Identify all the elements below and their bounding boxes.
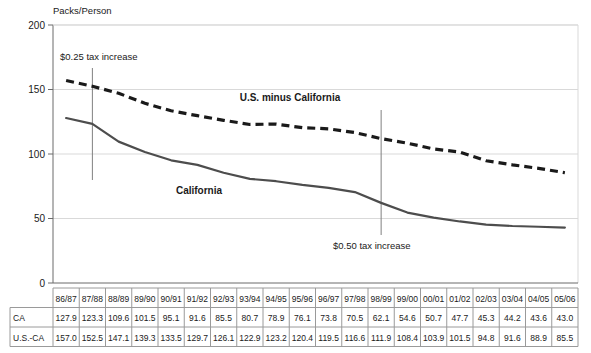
table-cell: 133.5 — [160, 333, 182, 343]
table-cell: 126.1 — [213, 333, 235, 343]
x-category-label: 05/06 — [554, 294, 576, 304]
table-cell: 157.0 — [55, 333, 77, 343]
x-category-label: 92/93 — [213, 294, 235, 304]
series-label: California — [176, 185, 223, 196]
table-cell: 44.2 — [504, 313, 521, 323]
table-cell: 73.8 — [320, 313, 337, 323]
table-cell: 91.6 — [189, 313, 206, 323]
annotation-label: $0.50 tax increase — [333, 240, 411, 251]
table-cell: 152.5 — [82, 333, 104, 343]
table-row-label: CA — [13, 313, 25, 323]
table-cell: 43.6 — [530, 313, 547, 323]
x-category-label: 99/00 — [397, 294, 419, 304]
table-row-label: U.S.-CA — [13, 333, 45, 343]
y-axis-title: Packs/Person — [53, 5, 112, 16]
table-cell: 129.7 — [187, 333, 209, 343]
x-category-label: 94/95 — [265, 294, 287, 304]
x-category-label: 89/90 — [134, 294, 156, 304]
x-category-label: 04/05 — [528, 294, 550, 304]
x-category-label: 96/97 — [318, 294, 340, 304]
annotation-label: $0.25 tax increase — [60, 51, 138, 62]
table-cell: 70.5 — [347, 313, 364, 323]
table-cell: 120.4 — [292, 333, 314, 343]
table-cell: 123.2 — [265, 333, 287, 343]
table-cell: 122.9 — [239, 333, 261, 343]
x-category-label: 93/94 — [239, 294, 261, 304]
cigarette-consumption-chart: 050100150200 Packs/Person $0.25 tax incr… — [0, 0, 591, 353]
table-cell: 50.7 — [425, 313, 442, 323]
table-cell: 101.5 — [134, 313, 156, 323]
y-tick-label: 100 — [28, 149, 45, 160]
table-cell: 95.1 — [163, 313, 180, 323]
x-category-label: 86/87 — [55, 294, 77, 304]
table-cell: 147.1 — [108, 333, 130, 343]
table-cell: 47.7 — [452, 313, 469, 323]
table-cell: 123.3 — [82, 313, 104, 323]
table-cell: 45.3 — [478, 313, 495, 323]
x-category-label: 03/04 — [502, 294, 524, 304]
table-cell: 62.1 — [373, 313, 390, 323]
x-category-label: 00/01 — [423, 294, 445, 304]
x-category-label: 88/89 — [108, 294, 130, 304]
x-category-label: 01/02 — [449, 294, 471, 304]
table-cell: 101.5 — [449, 333, 471, 343]
y-tick-label: 0 — [39, 278, 45, 289]
x-category-label: 91/92 — [187, 294, 209, 304]
x-category-label: 02/03 — [475, 294, 497, 304]
y-tick-label: 150 — [28, 84, 45, 95]
table-cell: 116.6 — [345, 333, 366, 343]
table-cell: 78.9 — [268, 313, 285, 323]
y-tick-label: 50 — [34, 213, 46, 224]
x-category-label: 90/91 — [160, 294, 182, 304]
chart-page: 050100150200 Packs/Person $0.25 tax incr… — [0, 0, 591, 353]
table-cell: 91.6 — [504, 333, 521, 343]
table-cell: 103.9 — [423, 333, 445, 343]
x-category-label: 97/98 — [344, 294, 366, 304]
table-cell: 85.5 — [557, 333, 574, 343]
table-cell: 108.4 — [397, 333, 419, 343]
table-cell: 111.9 — [371, 333, 391, 343]
series-line-california — [66, 118, 565, 228]
data-table: 86/8787/8888/8989/9090/9191/9292/9393/94… — [10, 288, 578, 347]
table-cell: 76.1 — [294, 313, 311, 323]
annotation-labels: $0.25 tax increase$0.50 tax increase — [60, 51, 411, 251]
x-category-label: 95/96 — [292, 294, 314, 304]
table-cell: 43.0 — [557, 313, 574, 323]
table-cell: 109.6 — [108, 313, 130, 323]
table-cell: 88.9 — [530, 333, 547, 343]
x-category-label: 87/88 — [82, 294, 104, 304]
table-cell: 139.3 — [134, 333, 156, 343]
y-tick-label: 200 — [28, 20, 45, 31]
table-cell: 54.6 — [399, 313, 416, 323]
table-cell: 127.9 — [55, 313, 77, 323]
x-category-label: 98/99 — [370, 294, 392, 304]
table-cell: 119.5 — [318, 333, 339, 343]
table-cell: 80.7 — [242, 313, 259, 323]
series-label: U.S. minus California — [240, 92, 341, 103]
table-cell: 94.8 — [478, 333, 495, 343]
table-cell: 85.5 — [215, 313, 232, 323]
y-axis: 050100150200 — [28, 20, 53, 289]
